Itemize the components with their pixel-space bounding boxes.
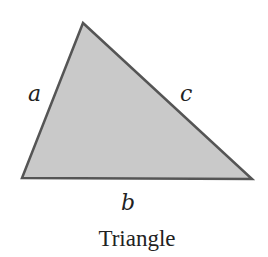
triangle-shape bbox=[22, 23, 252, 179]
triangle-diagram: a b c Triangle bbox=[0, 0, 268, 257]
side-label-b: b bbox=[121, 190, 135, 215]
side-label-c: c bbox=[180, 81, 192, 106]
diagram-caption: Triangle bbox=[98, 226, 175, 251]
side-label-a: a bbox=[28, 81, 41, 106]
